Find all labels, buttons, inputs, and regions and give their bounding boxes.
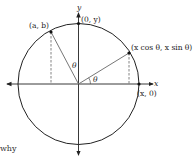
angle-arc-bottom (89, 78, 91, 84)
label-zero-y: (0, y) (81, 15, 101, 24)
x-axis-label: x (154, 79, 159, 88)
point-x-zero (137, 82, 140, 85)
label-a-b: (a, b) (29, 21, 49, 30)
radius-to-a-b (51, 32, 79, 84)
point-a-b (49, 30, 52, 33)
point-zero-y (77, 22, 80, 25)
label-x-zero: (x, 0) (137, 89, 157, 98)
angle-label-bottom: θ (93, 75, 98, 84)
rotation-diagram: y x (a, b) (0, y) (x cos θ, x sin θ) (x,… (0, 0, 194, 159)
y-axis-label: y (76, 3, 82, 12)
angle-label-top: θ (72, 61, 77, 70)
text-fragment: why (0, 144, 17, 153)
label-xcos-xsin: (x cos θ, x sin θ) (131, 43, 192, 52)
radius-to-xcos-xsin (79, 53, 130, 84)
